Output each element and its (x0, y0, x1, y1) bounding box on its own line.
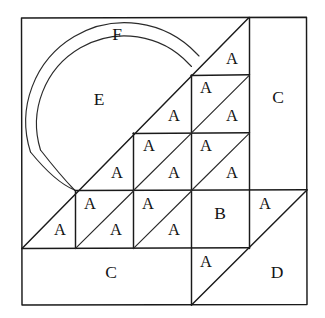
label-A-r2c1-upper: A (111, 163, 123, 182)
label-A-r1c3-upper: A (226, 106, 238, 125)
label-A-r2c3-upper: A (226, 163, 238, 182)
label-B: B (214, 203, 226, 223)
label-A-r3c1-lower: A (84, 194, 96, 213)
label-A-r2c3-lower: A (200, 136, 212, 155)
label-A-r3c0-upper: A (54, 220, 66, 239)
partition-figure: F E C C D B A A A A A A A A A A A A A A … (0, 0, 325, 318)
label-A-r1c2-upper: A (168, 106, 180, 125)
label-A-r3c4-lower: A (259, 194, 271, 213)
diagram-root: F E C C D B A A A A A A A A A A A A A A … (0, 0, 325, 318)
label-A-r0c3-upper: A (226, 49, 238, 68)
label-A-r3c2-upper: A (168, 220, 180, 239)
label-D: D (271, 262, 284, 282)
label-A-r3c1-upper: A (110, 220, 122, 239)
label-F: F (112, 24, 122, 44)
label-E: E (94, 89, 105, 109)
label-A-r2c2-lower: A (143, 136, 155, 155)
label-A-r1c3-lower: A (200, 78, 212, 97)
label-A-r3c2-lower: A (142, 194, 154, 213)
label-A-r2c2-upper: A (168, 163, 180, 182)
label-C-bottom: C (105, 262, 117, 282)
outer-border (22, 17, 308, 305)
label-A-below-grid: A (200, 252, 212, 271)
label-C-right: C (272, 87, 284, 107)
